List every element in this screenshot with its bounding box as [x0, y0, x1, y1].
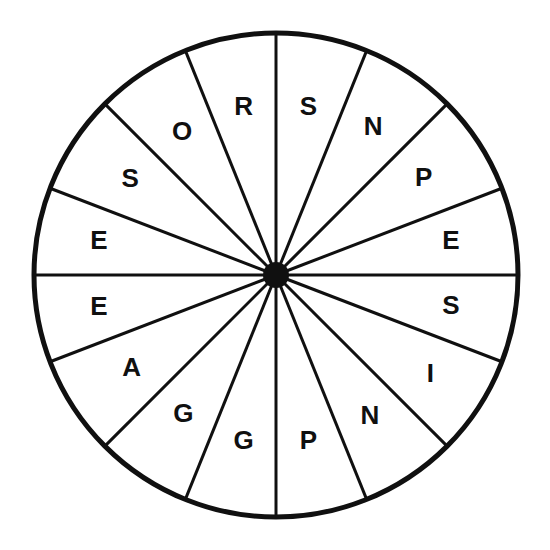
sector-divider-3: [276, 188, 502, 275]
wheel-figure: SNPESINPGGAEESOR: [0, 0, 550, 550]
sector-label-3: E: [442, 225, 459, 255]
sector-label-8: G: [233, 425, 253, 455]
sector-label-12: E: [90, 225, 107, 255]
sector-divider-7: [276, 275, 367, 499]
sector-label-10: A: [122, 352, 141, 382]
sector-divider-13: [50, 188, 276, 275]
sector-label-7: P: [300, 425, 317, 455]
wheel-canvas: SNPESINPGGAEESOR: [0, 0, 550, 550]
sector-label-2: P: [415, 162, 432, 192]
sector-label-5: I: [427, 358, 434, 388]
sector-divider-5: [276, 275, 502, 362]
sector-label-13: S: [121, 163, 138, 193]
sector-divider-11: [50, 275, 276, 362]
sector-label-1: N: [364, 111, 383, 141]
sector-label-9: G: [173, 398, 193, 428]
sector-label-11: E: [90, 291, 107, 321]
sector-label-4: S: [442, 290, 459, 320]
sector-label-14: O: [172, 116, 192, 146]
sector-divider-1: [276, 51, 367, 275]
sector-label-15: R: [234, 91, 253, 121]
sector-divider-9: [185, 275, 276, 499]
sector-label-6: N: [360, 400, 379, 430]
center-hub: [263, 262, 289, 288]
sector-label-0: S: [300, 91, 317, 121]
sector-divider-15: [185, 51, 276, 275]
